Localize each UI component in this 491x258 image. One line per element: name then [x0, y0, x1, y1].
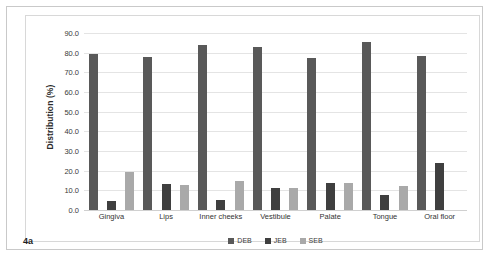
- plot-area: 90.080.070.060.050.040.030.020.010.00.0: [84, 33, 467, 210]
- bar-seb: [235, 181, 244, 211]
- x-axis-labels: GingivaLipsInner cheeksVestibulePalateTo…: [84, 212, 467, 221]
- legend-swatch-icon: [300, 238, 306, 244]
- bar-group: [303, 33, 358, 210]
- legend-item-jeb[interactable]: JEB: [265, 237, 287, 244]
- gridline: 0.0: [84, 210, 467, 211]
- bar-slot: [266, 33, 284, 210]
- bar-jeb: [326, 183, 335, 210]
- bar-deb: [143, 57, 152, 210]
- bar-slot: [139, 33, 157, 210]
- bar-group: [139, 33, 194, 210]
- x-axis-tick-label: Tongue: [358, 212, 413, 221]
- x-axis-tick-label: Oral floor: [412, 212, 467, 221]
- x-axis-tick-label: Inner cheeks: [193, 212, 248, 221]
- bar-slot: [321, 33, 339, 210]
- bar-jeb: [162, 184, 171, 210]
- bar-jeb: [435, 163, 444, 210]
- bar-deb: [253, 47, 262, 210]
- bar-group: [193, 33, 248, 210]
- x-axis-tick-label: Lips: [139, 212, 194, 221]
- bar-slot: [285, 33, 303, 210]
- y-axis-tick-label: 10.0: [64, 186, 79, 195]
- legend-item-deb[interactable]: DEB: [228, 237, 251, 244]
- panel-label: 4a: [23, 236, 33, 246]
- bar-slot: [394, 33, 412, 210]
- y-axis-tick-label: 40.0: [64, 127, 79, 136]
- figure-frame: Distribution (%) 90.080.070.060.050.040.…: [6, 6, 483, 250]
- y-axis-tick-label: 50.0: [64, 107, 79, 116]
- bar-seb: [180, 185, 189, 210]
- y-axis-tick-label: 0.0: [69, 206, 79, 215]
- bar-slot: [303, 33, 321, 210]
- bar-slot: [339, 33, 357, 210]
- bar-group: [412, 33, 467, 210]
- bar-seb: [125, 172, 134, 210]
- figure-screenshot: Distribution (%) 90.080.070.060.050.040.…: [0, 0, 491, 258]
- bar-deb: [417, 56, 426, 210]
- bar-slot: [230, 33, 248, 210]
- bar-groups: [84, 33, 467, 210]
- legend-item-seb[interactable]: SEB: [300, 237, 323, 244]
- legend-label: JEB: [274, 237, 287, 244]
- bar-slot: [175, 33, 193, 210]
- bar-slot: [193, 33, 211, 210]
- bar-deb: [362, 42, 371, 210]
- y-axis-tick-label: 70.0: [64, 68, 79, 77]
- bar-slot: [376, 33, 394, 210]
- bar-jeb: [216, 200, 225, 210]
- y-axis-tick-label: 90.0: [64, 29, 79, 38]
- legend-label: SEB: [309, 237, 323, 244]
- bar-seb: [344, 183, 353, 210]
- y-axis-tick-label: 30.0: [64, 147, 79, 156]
- y-axis-tick-label: 80.0: [64, 48, 79, 57]
- bar-jeb: [380, 195, 389, 210]
- bar-slot: [248, 33, 266, 210]
- bar-slot: [102, 33, 120, 210]
- bar-jeb: [271, 188, 280, 210]
- x-axis-tick-label: Vestibule: [248, 212, 303, 221]
- chart-card: Distribution (%) 90.080.070.060.050.040.…: [25, 15, 480, 242]
- bar-group: [84, 33, 139, 210]
- x-axis-tick-label: Gingiva: [84, 212, 139, 221]
- legend-label: DEB: [237, 237, 251, 244]
- x-axis-tick-label: Palate: [303, 212, 358, 221]
- bar-slot: [449, 33, 467, 210]
- bar-slot: [84, 33, 102, 210]
- bar-slot: [431, 33, 449, 210]
- bar-group: [248, 33, 303, 210]
- bar-seb: [289, 188, 298, 210]
- chart-legend: DEBJEBSEB: [84, 237, 467, 244]
- bar-slot: [358, 33, 376, 210]
- y-axis-tick-label: 60.0: [64, 88, 79, 97]
- legend-swatch-icon: [228, 238, 234, 244]
- bar-group: [358, 33, 413, 210]
- bar-deb: [89, 54, 98, 210]
- bar-slot: [412, 33, 430, 210]
- y-axis-tick-label: 20.0: [64, 166, 79, 175]
- bar-jeb: [107, 201, 116, 210]
- bar-deb: [307, 58, 316, 210]
- bar-deb: [198, 45, 207, 210]
- bar-slot: [157, 33, 175, 210]
- bar-slot: [212, 33, 230, 210]
- bar-slot: [120, 33, 138, 210]
- legend-swatch-icon: [265, 238, 271, 244]
- y-axis-title: Distribution (%): [45, 47, 55, 187]
- bar-seb: [399, 186, 408, 210]
